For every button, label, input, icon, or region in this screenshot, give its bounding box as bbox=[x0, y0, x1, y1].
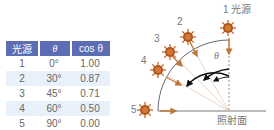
sun-icon-5 bbox=[137, 102, 153, 118]
surface-label: 照射面 bbox=[217, 115, 247, 126]
source-number-5: 5 bbox=[131, 104, 137, 115]
source-number-3: 3 bbox=[154, 33, 160, 44]
light-angle-diagram: 1 光源 2 3 4 5 θ 照射面 bbox=[0, 0, 274, 130]
sun-icon-4 bbox=[150, 62, 166, 78]
angle-arrow-3 bbox=[214, 77, 229, 81]
sun-icon-1 bbox=[220, 20, 236, 36]
sun-icon-3 bbox=[162, 44, 178, 60]
ray-4 bbox=[166, 77, 181, 85]
source-number-2: 2 bbox=[177, 16, 183, 27]
sun-icon-2 bbox=[180, 29, 196, 45]
theta-label: θ bbox=[214, 50, 219, 61]
source-number-4: 4 bbox=[141, 55, 147, 66]
source-label: 1 光源 bbox=[223, 3, 251, 15]
